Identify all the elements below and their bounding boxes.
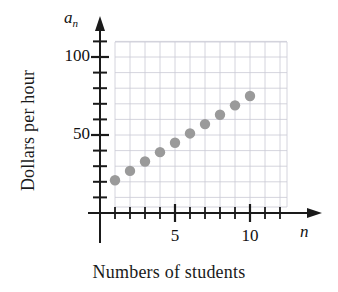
- x-tick-label: 5: [155, 226, 195, 246]
- x-tick-label: 10: [230, 226, 270, 246]
- x-axis-title: Numbers of students: [93, 262, 246, 282]
- data-point: [170, 138, 180, 148]
- data-point: [245, 91, 255, 101]
- plot-canvas: [0, 0, 338, 292]
- data-point: [185, 128, 195, 138]
- data-points: [110, 91, 255, 186]
- data-point: [215, 110, 225, 120]
- y-tick-label: 100: [38, 46, 90, 66]
- x-axis-variable-label: n: [300, 222, 309, 242]
- y-tick-label: 50: [38, 124, 90, 144]
- y-var-letter: a: [64, 8, 73, 27]
- data-point: [155, 147, 165, 157]
- data-point: [140, 156, 150, 166]
- data-point: [125, 166, 135, 176]
- scatter-plot-figure: 10050 510 an n Dollars per hour Numbers …: [0, 0, 338, 292]
- y-axis-title-wrapper: Dollars per hour: [18, 41, 39, 221]
- data-point: [230, 100, 240, 110]
- y-axis-title: Dollars per hour: [18, 70, 38, 191]
- y-var-subscript: n: [73, 17, 79, 29]
- data-point: [200, 119, 210, 129]
- x-axis-title-wrapper: Numbers of students: [0, 262, 338, 283]
- y-axis-variable-label: an: [64, 8, 78, 29]
- data-point: [110, 175, 120, 185]
